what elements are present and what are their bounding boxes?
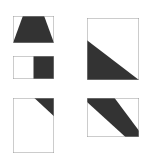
top-right-corner-triangle-icon: [13, 98, 54, 153]
shape-fill-polygon: [13, 16, 54, 43]
shape-canvas: [0, 0, 148, 160]
shape-fill-polygon: [34, 56, 55, 79]
shape-fill-polygon: [87, 98, 139, 137]
right-half-fill-icon: [13, 56, 54, 79]
shape-tile-bottom-left-corner-triangle[interactable]: [87, 18, 139, 80]
trapezoid-bottom-fill-icon: [13, 16, 54, 43]
shape-tile-trapezoid-bottom-fill[interactable]: [13, 16, 54, 43]
diagonal-band-icon: [87, 98, 139, 137]
shape-tile-right-half-fill[interactable]: [13, 56, 54, 79]
shape-fill-polygon: [87, 40, 139, 80]
shape-fill-polygon: [34, 98, 54, 116]
shape-tile-diagonal-band[interactable]: [87, 98, 139, 137]
shape-tile-top-right-corner-triangle[interactable]: [13, 98, 54, 153]
bottom-left-corner-triangle-icon: [87, 18, 139, 80]
